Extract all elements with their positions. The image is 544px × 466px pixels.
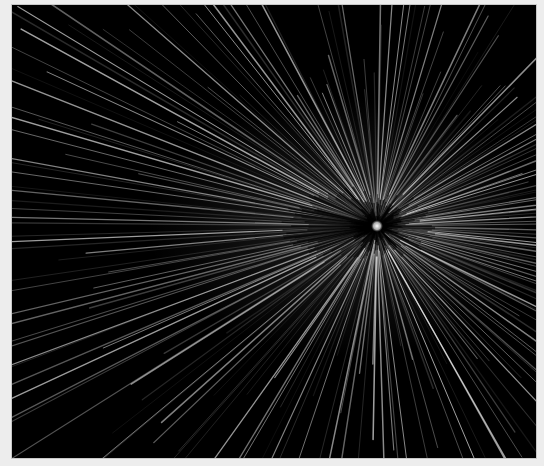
glowing-orb	[371, 220, 383, 232]
starburst-graphic	[12, 5, 536, 458]
starburst-canvas	[12, 5, 536, 458]
image-frame	[11, 4, 537, 459]
